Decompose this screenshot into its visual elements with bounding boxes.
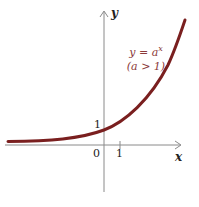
y-axis-label: y	[111, 6, 118, 20]
equation-text: y = a	[129, 46, 158, 59]
y-intercept-label: 1	[94, 118, 101, 131]
condition-text: (a > 1)	[126, 60, 166, 74]
origin-label: 0	[93, 147, 100, 160]
x-axis-label: x	[175, 150, 182, 164]
graph-canvas	[0, 0, 199, 207]
equation-exponent: x	[158, 44, 163, 53]
curve-equation: y = ax (a > 1)	[126, 42, 166, 74]
equation-line: y = ax	[126, 42, 166, 60]
x-tick-label: 1	[116, 147, 123, 160]
